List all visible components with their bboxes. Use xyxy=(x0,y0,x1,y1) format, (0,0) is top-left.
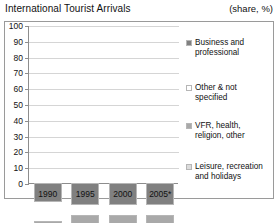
y-axis-label: 30 xyxy=(0,132,23,142)
y-axis-tick xyxy=(25,105,29,106)
y-axis-label: 0 xyxy=(0,179,23,189)
bar-segment xyxy=(71,205,99,214)
bar-segment xyxy=(34,202,62,221)
y-axis-tick xyxy=(25,58,29,59)
gridline xyxy=(29,26,179,27)
chart-legend: Business andprofessionalOther & notspeci… xyxy=(186,26,270,186)
legend-item-business[interactable]: Business andprofessional xyxy=(186,38,270,58)
units-label: (share, %) xyxy=(229,3,273,14)
legend-item-leisure[interactable]: Leisure, recreationand holidays xyxy=(186,162,270,182)
x-axis-label: 2005* xyxy=(149,189,171,199)
legend-item-other[interactable]: Other & notspecified xyxy=(186,83,270,103)
legend-item-vfr[interactable]: VFR, health,religion, other xyxy=(186,121,270,141)
gridline xyxy=(29,58,179,59)
gridline xyxy=(29,152,179,153)
page-title: International Tourist Arrivals xyxy=(5,3,131,14)
gridline xyxy=(29,168,179,169)
bar-segment xyxy=(109,205,137,214)
y-axis-tick xyxy=(25,73,29,74)
legend-item-label: Business andprofessional xyxy=(195,38,244,58)
chart-header: International Tourist Arrivals (share, %… xyxy=(0,0,278,22)
bar-segment xyxy=(146,215,174,223)
x-axis-label: 1995 xyxy=(76,189,95,199)
bar-segment xyxy=(34,221,62,223)
y-axis-label: 60 xyxy=(0,84,23,94)
bar-segment xyxy=(146,205,174,214)
y-axis-label: 100 xyxy=(0,21,23,31)
bar-segment xyxy=(71,215,99,223)
y-axis-tick xyxy=(25,168,29,169)
gridline xyxy=(29,73,179,74)
gridline xyxy=(29,121,179,122)
y-axis-tick xyxy=(25,184,29,185)
chart-page: International Tourist Arrivals (share, %… xyxy=(0,0,278,223)
legend-swatch-icon xyxy=(186,123,192,129)
gridline xyxy=(29,105,179,106)
gridline xyxy=(29,137,179,138)
y-axis-label: 50 xyxy=(0,100,23,110)
y-axis-label: 20 xyxy=(0,147,23,157)
y-axis-label: 40 xyxy=(0,116,23,126)
y-axis-label: 10 xyxy=(0,163,23,173)
y-axis-tick xyxy=(25,26,29,27)
y-axis-label: 70 xyxy=(0,68,23,78)
y-axis-tick xyxy=(25,42,29,43)
gridline xyxy=(29,89,179,90)
gridline xyxy=(29,42,179,43)
legend-item-label: Leisure, recreationand holidays xyxy=(195,162,263,182)
legend-swatch-icon xyxy=(186,164,192,170)
x-axis-label: 1990 xyxy=(38,189,57,199)
y-axis-tick xyxy=(25,137,29,138)
legend-item-label: Other & notspecified xyxy=(195,83,237,103)
y-axis-tick xyxy=(25,89,29,90)
x-axis-label: 2000 xyxy=(113,189,132,199)
legend-swatch-icon xyxy=(186,85,192,91)
plot-area: 01020304050607080901001990199520002005* xyxy=(28,26,178,184)
y-axis-label: 80 xyxy=(0,53,23,63)
y-axis-tick xyxy=(25,121,29,122)
y-axis-tick xyxy=(25,152,29,153)
bar-segment xyxy=(109,215,137,223)
legend-swatch-icon xyxy=(186,40,192,46)
legend-item-label: VFR, health,religion, other xyxy=(195,121,245,141)
y-axis-label: 90 xyxy=(0,37,23,47)
